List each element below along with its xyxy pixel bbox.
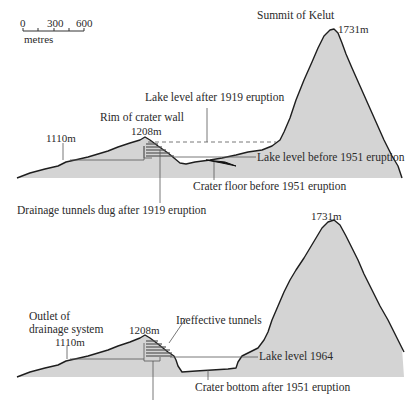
rim-elevation-bottom: 1208m bbox=[129, 324, 160, 337]
kelut-crater-cross-section-diagram: 0 300 600 metres Summit of Kelut 1731m L… bbox=[0, 0, 416, 400]
rim-of-crater-wall-label: Rim of crater wall bbox=[100, 111, 184, 124]
lake-level-after-1919-label: Lake level after 1919 eruption bbox=[145, 91, 284, 104]
scale-tick-0: 0 bbox=[20, 17, 26, 30]
lake-level-1964-label: Lake level 1964 bbox=[259, 350, 333, 363]
scale-tick-300: 300 bbox=[47, 17, 64, 30]
rim-elevation-top: 1208m bbox=[131, 125, 162, 138]
outlet-label-line1: Outlet of bbox=[29, 310, 70, 323]
ineffective-tunnels-label: Ineffective tunnels bbox=[176, 314, 262, 327]
bottom-terrain bbox=[17, 220, 404, 400]
outlet-elevation-top: 1110m bbox=[46, 132, 76, 145]
outlet-elevation-bottom: 1110m bbox=[55, 336, 85, 349]
top-terrain bbox=[17, 29, 402, 203]
scale-tick-600: 600 bbox=[76, 17, 93, 30]
scale-unit-label: metres bbox=[24, 33, 53, 46]
summit-elevation-bottom: 1731m bbox=[311, 210, 342, 223]
summit-label: Summit of Kelut bbox=[257, 9, 334, 22]
crater-floor-before-1951-label: Crater floor before 1951 eruption bbox=[193, 180, 346, 193]
crater-bottom-after-1951-label: Crater bottom after 1951 eruption bbox=[195, 381, 350, 394]
outlet-label-line2: drainage system bbox=[29, 323, 103, 336]
drainage-tunnels-label: Drainage tunnels dug after 1919 eruption bbox=[17, 204, 206, 217]
lake-level-before-1951-label: Lake level before 1951 eruption bbox=[257, 151, 405, 164]
summit-elevation-top: 1731m bbox=[338, 23, 369, 36]
